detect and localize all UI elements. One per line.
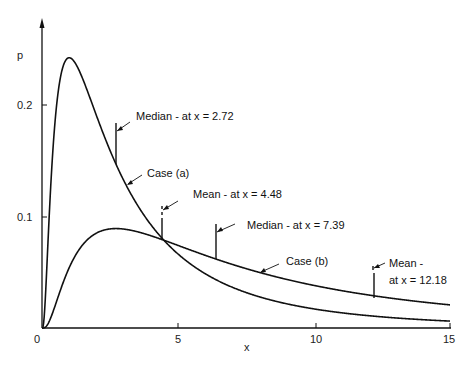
case-b-label: Case (b) xyxy=(286,255,328,267)
arrow-icon xyxy=(127,180,133,185)
x-tick-label-15: 15 xyxy=(443,333,455,345)
y-tick-label-0.2: 0.2 xyxy=(17,99,32,111)
x-tick-label-10: 10 xyxy=(310,333,322,345)
y-tick-label-0.1: 0.1 xyxy=(17,211,32,223)
median-b-label: Median - at x = 7.39 xyxy=(247,219,345,231)
mean-b-label-line1: Mean - xyxy=(389,257,424,269)
lognormal-chart: p 0.2 0.1 0 5 10 15 x Median - at x = 2.… xyxy=(0,0,468,366)
arrow-icon xyxy=(163,205,169,210)
x-axis-label: x xyxy=(244,341,250,353)
origin-label: 0 xyxy=(34,333,40,345)
x-tick-label-5: 5 xyxy=(175,333,181,345)
y-axis-label: p xyxy=(17,49,23,61)
arrow-icon xyxy=(217,227,223,232)
mean-b-label-line2: at x = 12.18 xyxy=(389,274,447,286)
arrow-icon xyxy=(117,126,123,131)
chart-container: p 0.2 0.1 0 5 10 15 x Median - at x = 2.… xyxy=(0,0,468,366)
median-a-label: Median - at x = 2.72 xyxy=(136,110,234,122)
case-a-label: Case (a) xyxy=(147,167,189,179)
arrow-icon xyxy=(260,268,266,273)
y-axis-arrow-icon xyxy=(40,18,45,28)
mean-a-label: Mean - at x = 4.48 xyxy=(193,188,282,200)
